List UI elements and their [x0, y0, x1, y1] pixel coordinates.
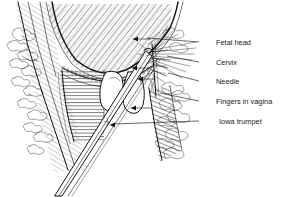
illustration-canvas: Fetal head Cervix Needle Fingers in vagi…: [0, 0, 289, 197]
medical-illustration-figure: Fetal head Cervix Needle Fingers in vagi…: [0, 0, 289, 197]
label-group-iowa-trumpet: Iowa trumpet: [113, 117, 262, 126]
leader-line-cervix: [167, 56, 199, 62]
leader-line-needle: [168, 73, 199, 81]
vaginal-wall-right: [146, 84, 190, 166]
label-needle: Needle: [216, 77, 239, 86]
arrow-trumpet-icon: [110, 123, 115, 128]
label-group-cervix: Cervix: [167, 56, 237, 67]
label-iowa-trumpet: Iowa trumpet: [219, 117, 262, 126]
label-group-needle: Needle: [168, 73, 239, 86]
label-cervix: Cervix: [216, 58, 237, 67]
label-fingers-in-vagina: Fingers in vagina: [216, 97, 273, 106]
label-fetal-head: Fetal head: [216, 38, 251, 47]
label-group-fingers-in-vagina: Fingers in vagina: [160, 93, 273, 106]
